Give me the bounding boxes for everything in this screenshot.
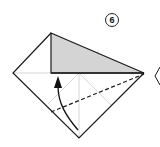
- valley-fold-line: [51, 74, 144, 112]
- fold-arrow-icon: [54, 76, 78, 130]
- shaded-flap: [51, 33, 144, 73]
- step-number-badge: 6: [105, 13, 119, 27]
- origami-diagram: 6: [0, 0, 160, 147]
- next-step-diamond: [155, 67, 160, 85]
